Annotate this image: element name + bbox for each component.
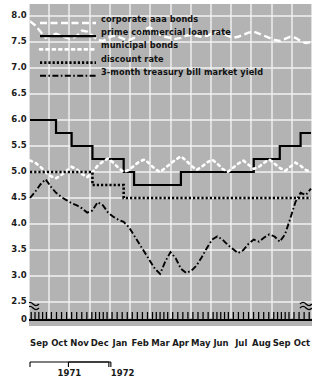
year-label: 1971 [30,368,109,378]
y-tick-label: 7.0 [11,63,27,72]
year-bracket [30,362,109,367]
x-tick-label: Sep [29,338,49,348]
legend-label: discount rate [101,54,164,64]
y-tick-label: 3.0 [11,271,27,280]
x-tick-label: May [191,338,211,348]
y-tick-label-zero: 0 [21,315,27,324]
x-tick-label: Dec [90,338,110,348]
y-tick-label: 6.0 [11,115,27,124]
y-tick-label: 3.5 [11,245,27,254]
year-label: 1972 [111,368,135,378]
legend-label: municipal bonds [101,40,178,50]
x-tick-label: Nov [69,338,89,348]
x-tick-label: Sep [272,338,292,348]
y-tick-label: 7.5 [11,37,27,46]
legend-label: corporate aaa bonds [101,14,198,24]
x-tick-label: Oct [49,338,69,348]
chart-canvas [29,4,312,326]
y-tick-label: 4.0 [11,219,27,228]
year-bracket-row: 19711972 [0,356,316,380]
year-bracket [68,362,110,367]
x-tick-label: Jan [110,338,130,348]
plot-area [29,4,312,326]
x-tick-label: Feb [130,338,150,348]
x-tick-label: Jul [231,338,251,348]
y-tick-label: 5.5 [11,141,27,150]
x-tick-label: Apr [171,338,191,348]
x-tick-label: Jun [211,338,231,348]
legend-label: 3-month treasury bill market yield [101,67,263,77]
x-tick-label: Oct [292,338,312,348]
x-axis-labels: SepOctNovDecJanFebMarAprMayJunJulAugSepO… [0,338,316,352]
legend-label: prime commercial loan rate [101,27,231,37]
chart-figure: 8.07.57.06.56.05.55.04.54.03.53.02.50 Se… [0,0,316,381]
y-axis-labels: 8.07.57.06.56.05.55.04.54.03.53.02.50 [0,0,29,340]
y-tick-label: 5.0 [11,167,27,176]
x-tick-label: Aug [251,338,271,348]
y-tick-label: 4.5 [11,193,27,202]
y-tick-label: 2.5 [11,297,27,306]
x-tick-label: Mar [150,338,170,348]
y-tick-label: 8.0 [11,11,27,20]
y-tick-label: 6.5 [11,89,27,98]
